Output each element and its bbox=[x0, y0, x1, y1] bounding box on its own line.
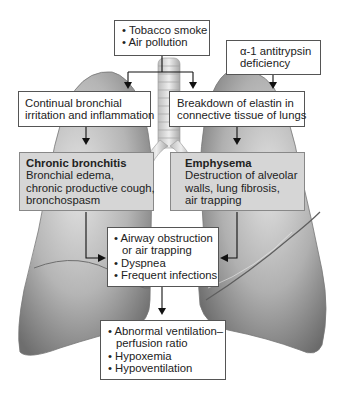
copd-diagram: Tobacco smoke Air pollution α-1 antitryp… bbox=[0, 0, 344, 393]
airway-obstruction-box: Airway obstruction or air trapping Dyspn… bbox=[107, 227, 219, 287]
bronchial-irritation-box: Continual bronchial irritation and infla… bbox=[18, 91, 151, 127]
emphysema-line-3: air trapping bbox=[185, 194, 304, 206]
elastin-breakdown-box: Breakdown of elastin in connective tissu… bbox=[169, 91, 305, 127]
obstruction-bullet-1-cont: or air trapping bbox=[114, 244, 218, 256]
obstruction-bullet-3: Frequent infections bbox=[114, 269, 218, 281]
outcome-bullet-2: Hypoxemia bbox=[108, 350, 225, 362]
irritation-line-2: irritation and inflammation bbox=[25, 109, 150, 121]
outcomes-box: Abnormal ventilation– perfusion ratio Hy… bbox=[100, 320, 226, 380]
obstruction-bullet-2: Dyspnea bbox=[114, 257, 218, 269]
aat-line-2: deficiency bbox=[240, 57, 320, 69]
aat-line-1: α-1 antitrypsin bbox=[240, 45, 320, 57]
obstruction-bullet-1: Airway obstruction bbox=[114, 232, 218, 244]
emphysema-box: Emphysema Destruction of alveolar walls,… bbox=[170, 152, 305, 211]
emphysema-line-1: Destruction of alveolar bbox=[185, 169, 304, 181]
chronic-bronchitis-box: Chronic bronchitis Bronchial edema, chro… bbox=[19, 152, 154, 211]
bronchitis-line-1: Bronchial edema, bbox=[26, 169, 153, 181]
bronchitis-title: Chronic bronchitis bbox=[26, 157, 153, 169]
emphysema-title: Emphysema bbox=[185, 157, 304, 169]
elastin-line-2: connective tissue of lungs bbox=[177, 109, 304, 121]
irritation-line-1: Continual bronchial bbox=[25, 97, 150, 109]
bronchitis-line-2: chronic productive cough, bbox=[26, 182, 153, 194]
outcome-bullet-1: Abnormal ventilation– bbox=[108, 325, 225, 337]
elastin-line-1: Breakdown of elastin in bbox=[177, 97, 304, 109]
cause-pollution: Air pollution bbox=[122, 36, 209, 48]
emphysema-line-2: walls, lung fibrosis, bbox=[185, 182, 304, 194]
bronchitis-line-3: bronchospasm bbox=[26, 194, 153, 206]
causes-box: Tobacco smoke Air pollution bbox=[114, 20, 210, 56]
outcome-bullet-3: Hypoventilation bbox=[108, 362, 225, 374]
outcome-bullet-1-cont: perfusion ratio bbox=[108, 337, 225, 349]
aat-deficiency-box: α-1 antitrypsin deficiency bbox=[226, 40, 321, 75]
cause-tobacco: Tobacco smoke bbox=[122, 24, 209, 36]
